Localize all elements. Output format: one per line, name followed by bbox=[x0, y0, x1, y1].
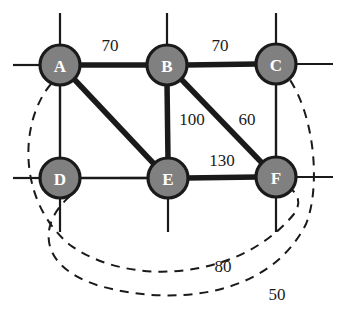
node-f-label: F bbox=[271, 169, 281, 188]
edge-weight-b-f: 60 bbox=[239, 110, 256, 129]
edge-e-f[interactable] bbox=[186, 177, 258, 178]
node-d-label: D bbox=[54, 170, 66, 189]
network-graph-svg: A B C D E F 70 bbox=[0, 0, 346, 309]
edge-b-e[interactable] bbox=[167, 83, 168, 160]
edge-weight-e-f: 130 bbox=[209, 151, 235, 170]
edge-weight-a-f-dashed: 80 bbox=[215, 257, 232, 276]
edge-weight-a-b: 70 bbox=[102, 36, 119, 55]
node-b-label: B bbox=[161, 57, 172, 76]
edge-a-e[interactable] bbox=[74, 79, 155, 165]
node-e[interactable]: E bbox=[148, 158, 188, 198]
node-f[interactable]: F bbox=[256, 157, 296, 197]
node-c-label: C bbox=[270, 56, 282, 75]
edge-b-c[interactable] bbox=[185, 64, 258, 65]
node-c[interactable]: C bbox=[256, 44, 296, 84]
node-a[interactable]: A bbox=[40, 45, 80, 85]
edge-weight-b-c: 70 bbox=[212, 36, 229, 55]
diagram-canvas: A B C D E F 70 bbox=[0, 0, 346, 309]
node-e-label: E bbox=[162, 170, 173, 189]
edge-weight-b-e: 100 bbox=[179, 110, 205, 129]
edge-weight-d-c-dashed: 50 bbox=[269, 285, 286, 304]
node-d[interactable]: D bbox=[40, 158, 80, 198]
node-b[interactable]: B bbox=[147, 45, 187, 85]
node-a-label: A bbox=[54, 57, 67, 76]
